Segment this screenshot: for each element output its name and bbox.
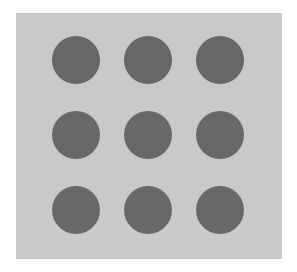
circle-dot	[196, 36, 244, 84]
circle-dot	[52, 111, 100, 159]
circle-dot	[124, 36, 172, 84]
circle-dot	[124, 111, 172, 159]
circle-dot	[196, 111, 244, 159]
circle-dot	[196, 186, 244, 234]
circle-dot	[124, 186, 172, 234]
circle-dot	[52, 36, 100, 84]
circle-dot	[52, 186, 100, 234]
